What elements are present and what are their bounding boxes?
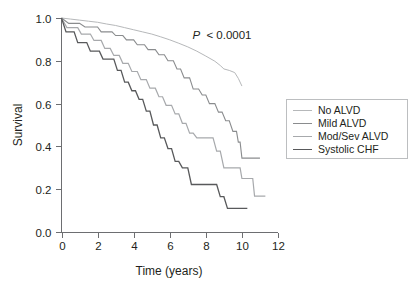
legend-item-label: Mod/Sev ALVD bbox=[318, 130, 388, 143]
legend-line-swatch bbox=[293, 136, 312, 137]
legend-item[interactable]: Systolic CHF bbox=[293, 143, 407, 156]
legend-item[interactable]: Mild ALVD bbox=[293, 117, 407, 130]
x-tick-label: 12 bbox=[272, 240, 285, 252]
p-value-symbol: P bbox=[193, 29, 201, 41]
legend: No ALVDMild ALVDMod/Sev ALVDSystolic CHF bbox=[286, 99, 408, 159]
y-tick-label: 0.2 bbox=[36, 184, 52, 196]
y-tick-label: 1.0 bbox=[36, 13, 52, 25]
x-tick-label: 8 bbox=[203, 240, 209, 252]
x-axis-tick-labels: 024681012 bbox=[59, 240, 285, 252]
legend-item[interactable]: Mod/Sev ALVD bbox=[293, 130, 407, 143]
p-value-annotation: P < 0.0001 bbox=[193, 29, 252, 41]
survival-curve bbox=[62, 18, 248, 208]
legend-item[interactable]: No ALVD bbox=[293, 104, 407, 117]
p-value-text: < 0.0001 bbox=[206, 29, 251, 41]
survival-curve bbox=[62, 18, 266, 196]
y-tick-label: 0.6 bbox=[36, 99, 52, 111]
x-tick-label: 4 bbox=[131, 240, 138, 252]
x-tick-label: 0 bbox=[59, 240, 65, 252]
legend-item-label: Systolic CHF bbox=[318, 143, 379, 156]
legend-line-swatch bbox=[293, 123, 312, 124]
y-axis-tick-labels: 0.00.20.40.60.81.0 bbox=[36, 13, 53, 239]
y-axis-title: Survival bbox=[11, 104, 25, 147]
x-tick-label: 10 bbox=[236, 240, 249, 252]
x-axis-ticks bbox=[63, 233, 279, 238]
x-tick-label: 6 bbox=[167, 240, 173, 252]
legend-item-label: Mild ALVD bbox=[318, 117, 366, 130]
legend-line-swatch bbox=[293, 110, 312, 111]
legend-line-swatch bbox=[293, 149, 312, 150]
y-tick-label: 0.0 bbox=[36, 227, 52, 239]
x-axis-title: Time (years) bbox=[136, 264, 203, 278]
axes-group bbox=[62, 18, 279, 233]
y-tick-label: 0.8 bbox=[36, 56, 52, 68]
legend-item-label: No ALVD bbox=[318, 104, 360, 117]
y-tick-label: 0.4 bbox=[36, 141, 53, 153]
survival-curves-group bbox=[62, 18, 266, 208]
x-tick-label: 2 bbox=[95, 240, 101, 252]
survival-chart-figure: 024681012 0.00.20.40.60.81.0 Time (years… bbox=[0, 0, 420, 289]
